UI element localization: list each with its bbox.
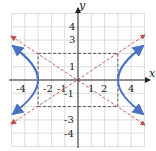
y-tick: -4 xyxy=(64,128,74,139)
y-tick: -1 xyxy=(64,88,74,99)
x-tick: 4 xyxy=(128,83,134,94)
x-tick: 2 xyxy=(101,83,107,94)
x-axis-label: x xyxy=(149,67,156,80)
y-tick: -3 xyxy=(64,114,74,125)
x-tick: -2 xyxy=(43,83,53,94)
y-axis-label: y xyxy=(78,0,86,12)
y-tick: 1 xyxy=(69,61,75,72)
hyperbola-diagram: x y -4 -2 -1 1 2 4 4 3 1 -1 -3 -4 xyxy=(0,0,156,151)
y-tick: 3 xyxy=(69,34,75,45)
x-tick: -4 xyxy=(16,83,26,94)
x-tick: 1 xyxy=(88,83,94,94)
graph-canvas: x y -4 -2 -1 1 2 4 4 3 1 -1 -3 -4 xyxy=(0,0,156,151)
y-tick: 4 xyxy=(69,21,75,32)
